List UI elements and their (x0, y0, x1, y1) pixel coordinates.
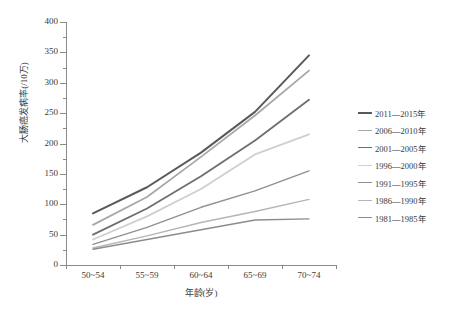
chart-figure: 大肠癌发病率(/10万) 050100150200250300350400 50… (0, 0, 466, 309)
x-tick (120, 265, 121, 269)
legend-label: 1996—2000年 (375, 159, 427, 171)
x-tick (282, 265, 283, 269)
x-tick-label: 65~69 (225, 270, 285, 280)
legend-line-icon (358, 200, 372, 201)
x-tick (174, 265, 175, 269)
y-tick-label: 100 (18, 199, 58, 208)
y-tick-label: 50 (18, 230, 58, 239)
x-tick-label: 70~74 (279, 270, 339, 280)
legend-line-icon (358, 182, 372, 183)
series-line (93, 134, 309, 239)
y-tick-label: 300 (18, 78, 58, 87)
legend-item[interactable]: 2001—2005年 (358, 139, 466, 157)
y-tick-label: 400 (18, 17, 58, 26)
legend-item[interactable]: 1996—2000年 (358, 157, 466, 175)
x-tick (66, 265, 67, 269)
legend-item[interactable]: 1991—1995年 (358, 174, 466, 192)
x-axis-line (66, 265, 337, 266)
legend-line-icon (358, 217, 372, 218)
plot-area (66, 22, 336, 265)
legend-line-icon (358, 130, 372, 131)
y-tick-label: 150 (18, 169, 58, 178)
x-tick (336, 265, 337, 269)
legend-label: 2001—2005年 (375, 142, 427, 154)
y-tick-label: 0 (18, 260, 58, 269)
chart-legend: 2011—2015年2006—2010年2001—2005年1996—2000年… (358, 104, 466, 227)
legend-label: 2011—2015年 (375, 107, 426, 119)
legend-item[interactable]: 2006—2010年 (358, 122, 466, 140)
legend-item[interactable]: 1981—1985年 (358, 209, 466, 227)
x-tick-label: 55~59 (117, 270, 177, 280)
legend-label: 1986—1990年 (375, 194, 427, 206)
legend-label: 2006—2010年 (375, 124, 427, 136)
x-tick-label: 50~54 (63, 270, 123, 280)
x-axis-title: 年龄(岁) (126, 286, 276, 299)
series-lines (66, 22, 336, 265)
legend-label: 1991—1995年 (375, 177, 427, 189)
y-tick-label: 200 (18, 139, 58, 148)
legend-line-icon (358, 112, 372, 114)
series-line (93, 100, 309, 235)
legend-label: 1981—1985年 (375, 212, 427, 224)
x-tick-label: 60~64 (171, 270, 231, 280)
legend-line-icon (358, 147, 372, 148)
legend-item[interactable]: 1986—1990年 (358, 192, 466, 210)
y-tick-label: 250 (18, 108, 58, 117)
legend-item[interactable]: 2011—2015年 (358, 104, 466, 122)
y-tick-label: 350 (18, 47, 58, 56)
legend-line-icon (358, 165, 372, 166)
series-line (93, 71, 309, 225)
x-tick (228, 265, 229, 269)
